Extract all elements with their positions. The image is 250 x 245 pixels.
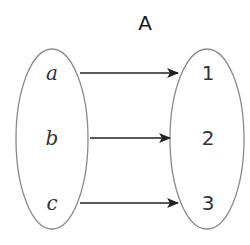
domain-element-a: a: [46, 61, 58, 85]
domain-element-c: c: [46, 191, 57, 215]
diagram-title: A: [138, 11, 152, 35]
domain-element-b: b: [46, 126, 59, 150]
codomain-element-1: 1: [202, 61, 215, 85]
mapping-diagram: A a b c 1 2 3: [0, 0, 250, 245]
codomain-element-2: 2: [202, 126, 215, 150]
codomain-element-3: 3: [202, 191, 215, 215]
